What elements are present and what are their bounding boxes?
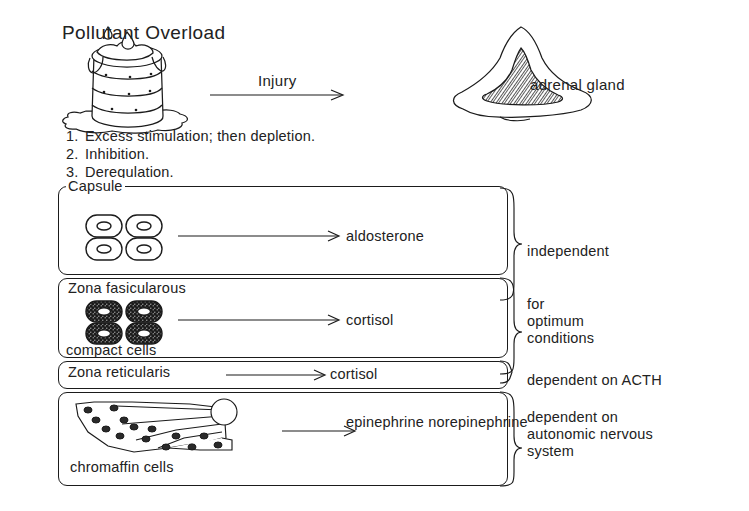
effects-list: 1.Excess stimulation; then depletion. 2.… [66, 127, 466, 181]
four-stippled-cells-icon [84, 299, 174, 347]
list-item: 1.Excess stimulation; then depletion. [66, 127, 466, 145]
list-item-label: Inhibition. [85, 146, 149, 162]
diagram-canvas: Pollutant Overload Injury adrenal gland … [0, 0, 749, 511]
list-item-number: 1. [66, 127, 85, 145]
zone-title-zona-fasicularous: Zona fasicularous [66, 280, 188, 296]
dependency-note-acth: dependent on ACTH [527, 372, 662, 389]
zone-product-cortisol-reticularis: cortisol [330, 366, 378, 383]
adrenal-gland-icon [453, 27, 591, 121]
adrenal-gland-label: adrenal gland [530, 76, 625, 93]
list-item-number: 2. [66, 145, 85, 163]
list-item: 3.Deregulation. [66, 163, 466, 181]
dependency-note-autonomic: dependent on autonomic nervous system [527, 409, 653, 460]
adrenal-zone-table: Capsule aldosterone Zona fasicularous [58, 186, 508, 486]
zone-subtitle-chromaffin-cells: chromaffin cells [70, 459, 174, 475]
injury-arrow-icon [210, 90, 343, 100]
zone-product-cortisol-fasicularous: cortisol [346, 312, 394, 329]
list-item: 2.Inhibition. [66, 145, 466, 163]
four-clear-cells-icon [84, 213, 174, 263]
zone-title-capsule: Capsule [66, 178, 125, 194]
page-title: Pollutant Overload [62, 22, 226, 44]
dependency-note-independent: independent [527, 243, 609, 260]
injury-arrow-label: Injury [258, 72, 296, 89]
zone-subtitle-compact-cells: compact cells [66, 342, 156, 358]
dependency-note-optimum-conditions: for optimum conditions [527, 296, 594, 347]
list-item-label: Excess stimulation; then depletion. [85, 128, 315, 144]
zone-product-aldosterone: aldosterone [346, 228, 424, 245]
zone-title-zona-reticularis: Zona reticularis [66, 364, 172, 380]
chromaffin-cluster-icon [72, 398, 282, 460]
